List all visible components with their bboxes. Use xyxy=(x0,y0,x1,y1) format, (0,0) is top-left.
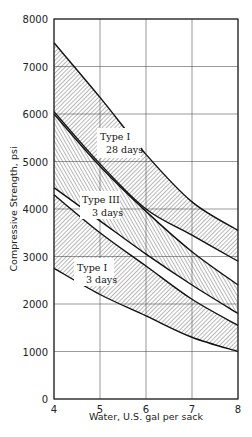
y-tick-label: 4000 xyxy=(23,204,48,215)
band-label-type: Type I xyxy=(100,131,130,142)
band-label-type: Type III xyxy=(82,194,120,205)
y-tick-label: 2000 xyxy=(23,299,48,310)
x-tick-label: 8 xyxy=(235,404,241,415)
y-tick-label: 5000 xyxy=(23,157,48,168)
chart-canvas: 010002000300040005000600070008000 45678 … xyxy=(0,0,252,437)
band-label-age: 3 days xyxy=(92,207,123,218)
x-tick-label: 4 xyxy=(51,404,57,415)
y-tick-label: 0 xyxy=(42,394,48,405)
y-axis-ticks: 010002000300040005000600070008000 xyxy=(23,14,48,405)
band-label-age: 3 days xyxy=(86,274,117,285)
x-axis-label: Water, U.S. gal per sack xyxy=(89,411,203,422)
band-label-type: Type I xyxy=(77,262,107,273)
y-tick-label: 3000 xyxy=(23,252,48,263)
y-tick-label: 6000 xyxy=(23,109,48,120)
y-tick-label: 8000 xyxy=(23,14,48,25)
y-tick-label: 7000 xyxy=(23,62,48,73)
y-tick-label: 1000 xyxy=(23,347,48,358)
band-label-age: 28 days xyxy=(106,144,143,155)
y-axis-label: Compressive Strength, psi xyxy=(8,146,19,271)
